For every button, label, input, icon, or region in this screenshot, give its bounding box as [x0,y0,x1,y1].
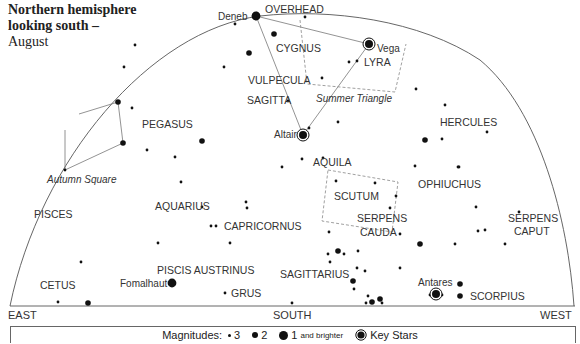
star-mag3 [414,165,417,168]
legend-title: Magnitudes: [162,329,222,341]
constellation-label: CETUS [40,279,76,291]
constellation-label: SAGITTARIUS [280,268,349,280]
constellation-label: AQUILA [313,156,352,168]
star-mag2 [199,138,205,144]
star-mag3 [484,229,487,232]
star-mag3 [281,166,284,169]
constellation-label: PEGASUS [142,118,193,130]
star-mag3 [353,288,356,291]
legend-mag1-label: 1 [291,329,297,341]
constellation-label: SCORPIUS [470,290,525,302]
constellation-label: PISCES [34,208,73,220]
star-mag2 [271,31,277,37]
constellation-label: LYRA [364,56,391,68]
star-mag3 [457,166,460,169]
legend-mag1: 1 and brighter [279,329,343,341]
legend-mag3: 3 [228,329,240,341]
star-mag3 [328,231,331,234]
constellation-label: CAUDA [360,226,397,238]
legend-mag1-suffix: and brighter [300,331,343,340]
star-mag3 [365,302,368,305]
constellation-label: SERPENS [357,212,407,224]
star-mag3 [123,66,126,69]
constellation-label: CAPRICORNUS [224,220,302,232]
key-star-label-antares: Antares [418,277,452,288]
star-mag3 [327,253,330,256]
star-mag3 [348,61,351,64]
key-star-altair [299,131,307,139]
sky-chart: DenebVegaAltairAntaresFomalhautOVERHEADC… [0,0,580,344]
star-mag3 [477,230,480,233]
star-mag3 [308,127,311,130]
labels-layer: DenebVegaAltairAntaresFomalhautOVERHEADC… [34,3,558,302]
constellation-label: PISCIS AUSTRINUS [157,264,254,276]
star-mag3 [504,243,507,246]
star-mag3 [234,23,237,26]
key-star-label-deneb: Deneb [218,11,248,22]
constellation-label: SCUTUM [334,190,379,202]
mag3-star-icon [228,334,231,337]
star-mag3 [64,169,67,172]
star-mag3 [304,16,307,19]
star-mag3 [454,243,457,246]
star-mag3 [246,207,249,210]
star-mag3 [210,225,213,228]
star-mag3 [374,182,377,185]
key-star-icon [355,329,367,341]
overhead-label: OVERHEAD [265,3,324,15]
star-mag2 [246,50,252,56]
star-mag3 [357,250,360,253]
star-mag2 [120,140,126,146]
key-star-vega [365,40,373,48]
sky-dome-arc [10,14,574,306]
legend-key-stars-label: Key Stars [370,329,418,341]
star-mag3 [415,88,418,91]
star-mag3 [337,121,340,124]
star-fomalhaut [168,279,177,288]
star-mag3 [245,201,248,204]
star-mag3 [486,131,489,134]
star-mag3 [335,180,338,183]
star-mag2 [377,296,383,302]
star-mag2 [335,248,341,254]
star-mag2 [85,300,91,306]
star-mag3 [291,302,294,305]
star-mag3 [395,195,398,198]
horizon-south-label: SOUTH [273,309,312,321]
star-mag3 [381,302,384,305]
star-mag3 [131,107,134,110]
constellation-label: CYGNUS [276,42,321,54]
star-mag3 [321,77,324,80]
legend-mag2: 2 [252,329,267,341]
star-mag3 [229,242,232,245]
legend-mag3-label: 3 [234,329,240,341]
star-mag3 [475,206,478,209]
key-star-label-fomalhaut: Fomalhaut [120,278,167,289]
star-mag2 [115,99,121,105]
asterism-label: Autumn Square [46,174,117,185]
star-mag3 [364,270,367,273]
star-mag3 [399,267,402,270]
constellation-label: HERCULES [440,116,497,128]
constellation-label: VULPECULA [248,74,310,86]
star-mag3 [389,207,392,210]
constellation-label: GRUS [231,287,261,299]
star-mag3 [399,233,402,236]
star-mag3 [80,261,83,264]
star-mag3 [146,149,149,152]
star-mag2 [422,137,428,143]
star-mag3 [441,138,444,141]
star-mag3 [301,158,304,161]
star-mag3 [367,295,370,298]
constellation-label: AQUARIUS [155,200,210,212]
constellation-label: OPHIUCHUS [418,178,481,190]
constellation-label: CAPUT [514,225,550,237]
star-mag3 [215,225,218,228]
autumn-square-lines [65,102,123,170]
star-deneb [252,12,261,21]
star-mag3 [444,104,447,107]
star-mag3 [356,60,359,63]
magnitude-legend: Magnitudes: 3 2 1 and brighter Key Stars [10,326,576,343]
star-mag2 [457,281,463,287]
key-star-label-vega: Vega [377,43,400,54]
